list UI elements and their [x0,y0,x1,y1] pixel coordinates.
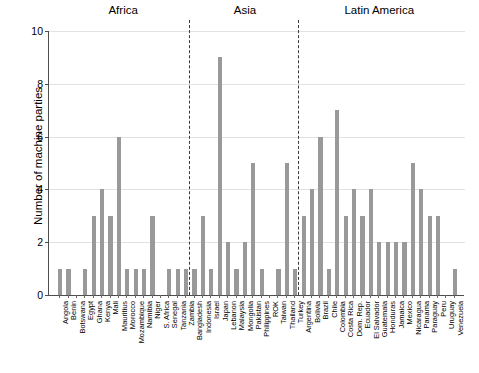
x-axis-tick-label: Morocco [129,301,136,329]
bar [108,216,112,295]
x-axis-tick-mark [429,295,430,298]
group-title: Asia [234,4,256,16]
x-axis-tick-label: Philippines [263,301,270,337]
bar [142,269,146,295]
x-axis-tick-label: Ecuador [364,301,371,329]
x-axis-tick-label: Argentina [305,301,312,333]
x-axis-tick-mark [76,295,77,298]
x-axis-tick-mark [378,295,379,298]
gridline [49,137,465,138]
y-axis-tick-label: 0 [9,289,49,301]
x-axis-tick-mark [437,295,438,298]
bar [344,216,348,295]
x-axis-tick-mark [101,295,102,298]
x-axis-tick-label: Bangladesh [196,301,203,340]
x-axis-tick-label: El Salvador [373,301,380,339]
x-axis-tick-label: Honduras [389,301,396,333]
x-axis-tick-mark [210,295,211,298]
x-axis-tick-mark [135,295,136,298]
bar [226,242,230,295]
y-axis-tick-label: 8 [9,78,49,90]
gridline [49,31,465,32]
bar [352,189,356,295]
x-axis-tick-mark [370,295,371,298]
x-axis-tick-label: Tanzania [180,301,187,331]
x-axis-tick-mark [168,295,169,298]
x-axis-tick-label: Benin [70,301,77,320]
bar [117,137,121,295]
bar-chart: Number of machine parties 0246810AfricaA… [0,0,479,373]
x-axis-tick-mark [336,295,337,298]
x-axis-tick-mark [84,295,85,298]
bar [184,269,188,295]
x-axis-tick-mark [311,295,312,298]
x-axis-tick-mark [269,295,270,298]
y-axis-tick-mark [45,242,49,243]
x-axis-tick-mark [160,295,161,298]
x-axis-tick-label: Brazil [322,301,329,319]
bar [360,216,364,295]
x-axis-tick-label: Niger [154,301,161,319]
x-axis-tick-mark [403,295,404,298]
x-axis-tick-mark [412,295,413,298]
bar [209,269,213,295]
x-axis-tick-mark [252,295,253,298]
y-axis-tick-mark [45,84,49,85]
bar [377,242,381,295]
x-axis-tick-mark [68,295,69,298]
bar [83,269,87,295]
x-axis-tick-label: Senegal [171,301,178,328]
group-title: Africa [108,4,137,16]
x-axis-tick-label: Mexico [406,301,413,324]
bar [218,57,222,295]
x-axis-tick-mark [118,295,119,298]
bar [394,242,398,295]
bar [310,189,314,295]
x-axis-tick-mark [110,295,111,298]
plot-area: 0246810AfricaAsiaLatin America [48,31,464,295]
bar [176,269,180,295]
bar [92,216,96,295]
x-axis-tick-mark [177,295,178,298]
bar [436,216,440,295]
x-axis-tick-mark [353,295,354,298]
x-axis-tick-mark [236,295,237,298]
group-separator [298,20,299,295]
bar [260,269,264,295]
bar [302,216,306,295]
x-axis-tick-label: Mali [112,301,119,315]
bar [66,269,70,295]
group-separator [189,20,190,295]
x-axis-tick-label: Malaysia [238,301,245,330]
bar [402,242,406,295]
gridline [49,84,465,85]
x-axis-tick-mark [286,295,287,298]
x-axis-tick-mark [387,295,388,298]
bar [100,189,104,295]
gridline [49,189,465,190]
bar [293,269,297,295]
bar [428,216,432,295]
x-axis-tick-mark [59,295,60,298]
x-axis-tick-label: Egypt [87,301,94,320]
x-axis-tick-mark [185,295,186,298]
bar [285,163,289,295]
x-axis-tick-label: Uruguay [448,301,455,329]
x-axis-tick-label: Taiwan [280,301,287,324]
x-axis-tick-mark [445,295,446,298]
x-axis-tick-mark [319,295,320,298]
y-axis-tick-mark [45,31,49,32]
group-title: Latin America [344,4,414,16]
bar [150,216,154,295]
x-axis-tick-mark [328,295,329,298]
x-axis-tick-label: Thailand [289,301,296,329]
x-axis-tick-mark [126,295,127,298]
x-axis-tick-mark [261,295,262,298]
bar [369,189,373,295]
bar [251,163,255,295]
x-axis-tick-mark [420,295,421,298]
x-axis-tick-label: Japan [222,301,229,321]
x-axis-tick-label: Nicaragua [415,301,422,335]
x-axis-tick-mark [93,295,94,298]
x-axis-tick-mark [361,295,362,298]
